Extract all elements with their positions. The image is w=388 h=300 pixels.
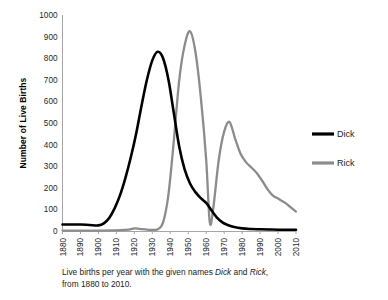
x-tick-label: 1930 (148, 238, 157, 257)
x-tick-label: 1990 (256, 238, 265, 257)
caption-name-dick: Dick (215, 267, 231, 277)
y-tick-label: 800 (44, 54, 58, 63)
caption-text-post: , (266, 267, 268, 277)
caption-name-rick: Rick (250, 267, 266, 277)
x-tick-label: 1900 (94, 238, 103, 257)
x-tick-label: 2010 (292, 238, 301, 257)
x-tick-label: 1960 (202, 238, 211, 257)
y-tick-label: 200 (44, 184, 58, 193)
x-tick-label: 1920 (130, 238, 139, 257)
y-tick-label: 1000 (39, 11, 58, 20)
y-tick-label: 100 (44, 205, 58, 214)
caption-line-two: from 1880 to 2010. (62, 279, 132, 289)
y-tick-label: 300 (44, 162, 58, 171)
y-tick-label: 900 (44, 33, 58, 42)
x-tick-label: 1950 (184, 238, 193, 257)
caption-text-pre: Live births per year with the given name… (62, 267, 215, 277)
x-tick-label: 1910 (112, 238, 121, 257)
x-tick-label: 2000 (274, 238, 283, 257)
y-axis-title: Number of Live Births (18, 77, 28, 168)
live-births-line-chart: Number of Live Births 010020030040050060… (0, 0, 388, 262)
caption-text-mid: and (231, 267, 249, 277)
y-tick-label: 0 (53, 227, 58, 236)
x-tick-label: 1940 (166, 238, 175, 257)
x-tick-label: 1980 (238, 238, 247, 257)
y-axis-title-text: Number of Live Births (18, 77, 28, 168)
x-tick-label: 1890 (76, 238, 85, 257)
y-tick-label: 400 (44, 141, 58, 150)
y-tick-label: 700 (44, 76, 58, 85)
y-tick-label: 600 (44, 97, 58, 106)
y-tick-label: 500 (44, 119, 58, 128)
legend-label-dick[interactable]: Dick (337, 129, 355, 139)
chart-figure: Number of Live Births 010020030040050060… (0, 0, 388, 300)
x-tick-label: 1880 (59, 238, 68, 257)
figure-caption: Live births per year with the given name… (62, 266, 362, 291)
chart-plot-region: Number of Live Births 010020030040050060… (0, 0, 388, 262)
legend-label-rick[interactable]: Rick (337, 158, 355, 168)
x-tick-label: 1970 (220, 238, 229, 257)
